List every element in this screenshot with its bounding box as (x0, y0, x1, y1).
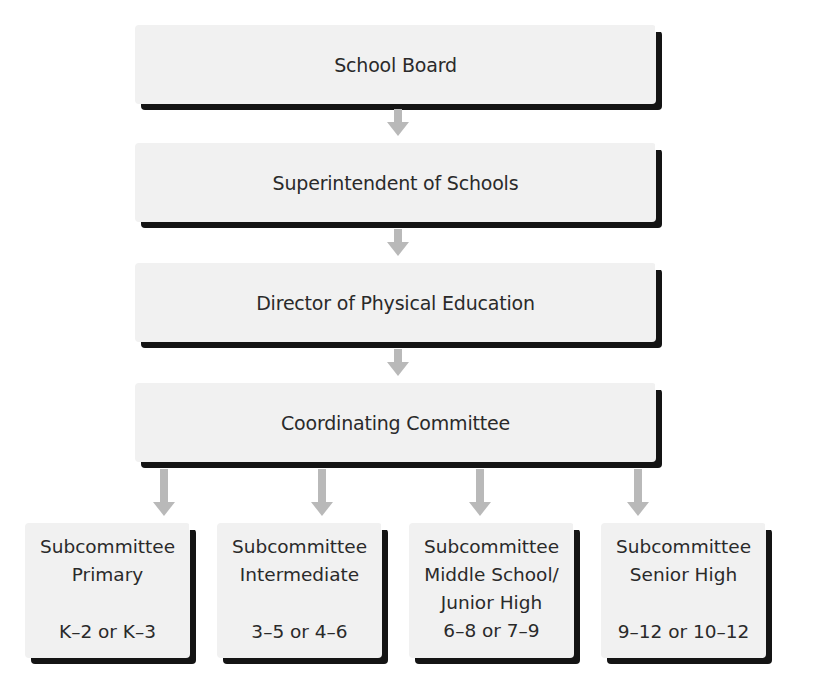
subcommittee-title: Subcommittee (616, 533, 751, 561)
node-label: School Board (334, 54, 457, 76)
subcommittee-grades: K–2 or K–3 (25, 618, 190, 646)
arrow-down-icon (627, 469, 649, 518)
subcommittee-title: Subcommittee (40, 533, 175, 561)
subcommittee-title: Subcommittee (424, 533, 559, 561)
node-subcommittee-middle-school: Subcommittee Middle School/ Junior High … (409, 523, 574, 658)
node-label: Coordinating Committee (281, 412, 510, 434)
subcommittee-level: Middle School/ (424, 561, 559, 589)
subcommittee-title: Subcommittee (232, 533, 367, 561)
subcommittee-grades: 6–8 or 7–9 (443, 617, 539, 645)
subcommittee-level: Senior High (630, 561, 737, 589)
arrow-down-icon (153, 469, 175, 518)
arrow-down-icon (387, 349, 409, 376)
arrow-down-icon (469, 469, 491, 518)
subcommittee-grades: 3–5 or 4–6 (217, 618, 382, 646)
node-label: Superintendent of Schools (273, 172, 519, 194)
node-subcommittee-senior-high: Subcommittee Senior High 9–12 or 10–12 (601, 523, 766, 658)
subcommittee-level: Intermediate (240, 561, 359, 589)
node-school-board: School Board (135, 25, 656, 104)
node-subcommittee-intermediate: Subcommittee Intermediate 3–5 or 4–6 (217, 523, 382, 658)
node-subcommittee-primary: Subcommittee Primary K–2 or K–3 (25, 523, 190, 658)
subcommittee-grades: 9–12 or 10–12 (601, 618, 766, 646)
node-superintendent: Superintendent of Schools (135, 143, 656, 222)
node-director-pe: Director of Physical Education (135, 263, 656, 342)
node-coordinating-committee: Coordinating Committee (135, 383, 656, 462)
arrow-down-icon (387, 229, 409, 256)
subcommittee-level-alt: Junior High (441, 589, 542, 617)
node-label: Director of Physical Education (256, 292, 535, 314)
subcommittee-level: Primary (72, 561, 144, 589)
arrow-down-icon (387, 109, 409, 136)
arrow-down-icon (311, 469, 333, 518)
